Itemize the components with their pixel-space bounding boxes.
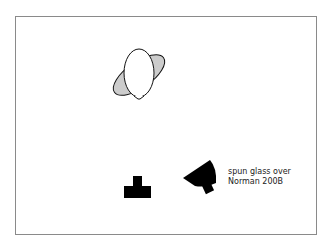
camera-icon <box>124 176 151 198</box>
light-label-line2: Norman 200B <box>228 177 291 187</box>
light-label-line1: spun glass over <box>228 167 291 177</box>
light-label: spun glass over Norman 200B <box>228 167 291 187</box>
light-dish-icon <box>183 160 216 194</box>
lighting-diagram-canvas <box>0 0 331 251</box>
